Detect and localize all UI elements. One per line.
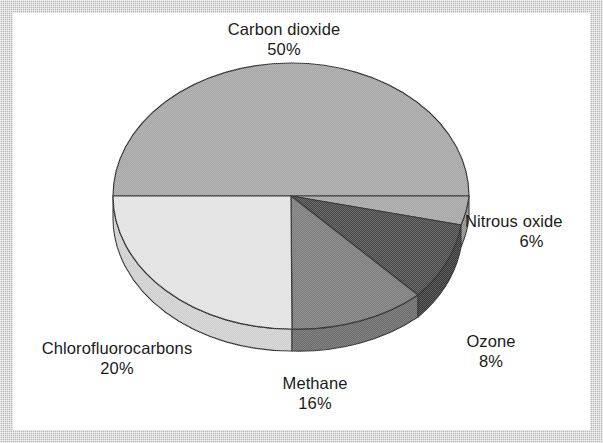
slice-label-percent: 20% — [13, 358, 225, 378]
slice-label-percent: 16% — [245, 393, 385, 413]
slice-label-name: Carbon dioxide — [228, 20, 340, 38]
slice-label-name: Chlorofluorocarbons — [42, 339, 192, 357]
slice-label-carbon-dioxide: Carbon dioxide 50% — [154, 19, 414, 59]
slice-label-percent: 50% — [154, 39, 414, 59]
chart-canvas: Carbon dioxide 50% Nitrous oxide 6% Ozon… — [13, 13, 590, 430]
slice-label-name: Ozone — [466, 332, 515, 350]
slice-label-percent: 6% — [465, 231, 590, 251]
slice-label-ozone: Ozone 8% — [421, 331, 561, 371]
slice-label-percent: 8% — [421, 351, 561, 371]
slice-label-name: Methane — [283, 374, 348, 392]
slice-label-name: Nitrous oxide — [465, 212, 563, 230]
slice-label-nitrous-oxide: Nitrous oxide 6% — [465, 211, 590, 251]
slice-label-chlorofluorocarbons: Chlorofluorocarbons 20% — [13, 338, 225, 378]
figure-frame: Carbon dioxide 50% Nitrous oxide 6% Ozon… — [0, 0, 603, 443]
slice-label-methane: Methane 16% — [245, 373, 385, 413]
